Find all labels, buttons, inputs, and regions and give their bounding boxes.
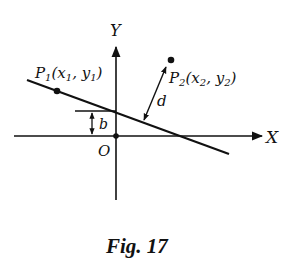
figure-caption: Fig. 17	[105, 234, 169, 258]
x-axis-label: X	[264, 127, 279, 147]
origin-dot	[113, 133, 119, 139]
point-p1	[54, 88, 61, 95]
intercept-label: b	[99, 116, 108, 132]
point-p2-label: P2(x2, y2)	[168, 69, 237, 88]
point-p1-label: P1(x1, y1)	[34, 64, 103, 83]
distance-label: d	[157, 92, 167, 110]
figure-canvas: X Y O P1(x1, y1) P2(x2, y2) d b Fig. 17	[0, 0, 300, 266]
y-axis-label: Y	[110, 21, 122, 40]
origin-label: O	[98, 142, 110, 160]
point-p2	[168, 57, 175, 64]
